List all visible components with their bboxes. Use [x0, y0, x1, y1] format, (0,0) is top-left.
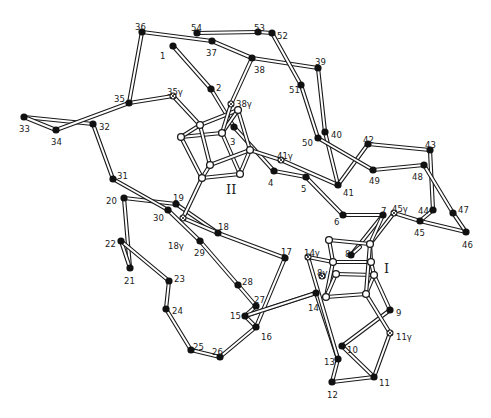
atom-label: 32 — [99, 122, 110, 132]
atom-label: 8γ — [317, 268, 327, 278]
atom-24-icon — [162, 305, 169, 312]
bond-9-10 — [342, 310, 390, 346]
atom-label: 7 — [381, 206, 386, 216]
atom-45-icon — [416, 217, 423, 224]
atom-label: 23 — [174, 274, 185, 284]
atom-34-icon — [52, 126, 59, 133]
atom-47-icon — [449, 209, 456, 216]
atom-label: 15 — [230, 311, 241, 321]
iron-sulfur-cluster-bonds — [129, 58, 420, 377]
bond-26-16 — [220, 327, 256, 357]
atom-label: 14γ — [304, 248, 320, 258]
atom-label: 17 — [281, 247, 292, 257]
atom-2-icon — [207, 85, 214, 92]
atom-50-icon — [314, 134, 321, 141]
atom-33-icon — [20, 113, 27, 120]
atom-1-icon — [169, 42, 176, 49]
cluster-i-atom-icon — [330, 259, 337, 266]
cluster-i-atom-icon — [326, 237, 333, 244]
atom-label: 53 — [254, 23, 265, 33]
cluster-ii-atom-icon — [178, 134, 185, 141]
atom-44-icon — [429, 206, 436, 213]
cluster-ii-atom-icon — [237, 171, 244, 178]
cluster-i-atom-icon — [323, 294, 330, 301]
atom-22-icon — [117, 237, 124, 244]
atom-label: 1 — [160, 51, 165, 61]
atom-label: 27 — [254, 295, 265, 305]
atom-label: 46 — [462, 240, 473, 250]
cluster-ii-atom-icon — [219, 130, 226, 137]
bond-37-38 — [212, 41, 252, 58]
atom-label: 14 — [308, 303, 319, 313]
atom-label: 12 — [327, 390, 338, 400]
atom-label: 29 — [194, 248, 205, 258]
atom-label: 4 — [268, 178, 273, 188]
atom-label: 18γ — [168, 241, 184, 251]
atom-label: 11γ — [396, 332, 412, 342]
atom-label: 38 — [254, 65, 265, 75]
cluster-i-atom-icon — [363, 291, 370, 298]
atom-37-icon — [208, 37, 215, 44]
atom-label: 39 — [315, 57, 326, 67]
atom-32-icon — [89, 120, 96, 127]
atom-label: 3 — [230, 137, 235, 147]
cluster-ii-atom-icon — [197, 122, 204, 129]
atom-label: 28 — [242, 277, 253, 287]
atom-label: 52 — [277, 31, 288, 41]
bond-3-4 — [234, 127, 274, 171]
atom-labels: 1234567891011121314151617181920212223242… — [19, 22, 473, 400]
bond-17-18 — [218, 233, 285, 258]
atom-label: 2 — [216, 83, 221, 93]
atom-28-icon — [234, 281, 241, 288]
protein-backbone-diagram: 1234567891011121314151617181920212223242… — [0, 0, 491, 418]
atom-label: 18 — [218, 222, 229, 232]
bond-16-17 — [256, 258, 285, 327]
atom-48-icon — [420, 161, 427, 168]
atom-10-icon — [338, 342, 345, 349]
atom-label: 11 — [379, 378, 390, 388]
cluster-i-atom-icon — [371, 272, 378, 279]
atom-label: 48 — [412, 172, 423, 182]
cluster-ii-atom-icon — [207, 162, 214, 169]
atom-label: 43 — [425, 140, 436, 150]
atom-12-icon — [328, 378, 335, 385]
atom-label: 31 — [117, 171, 128, 181]
atom-14-icon — [312, 289, 319, 296]
atom-38-icon — [248, 54, 255, 61]
atom-label: 44 — [418, 206, 429, 216]
atom-label: 49 — [369, 176, 380, 186]
atom-label: 16 — [261, 332, 272, 342]
bond-50-51 — [301, 85, 318, 138]
cluster-label-i: I — [384, 261, 389, 276]
cluster-ii-atom-icon — [247, 147, 254, 154]
atom-label: 26 — [212, 347, 223, 357]
atom-6-icon — [339, 211, 346, 218]
atom-label: 40 — [331, 130, 342, 140]
atom-label: 35γ — [167, 87, 183, 97]
atom-49-icon — [369, 166, 376, 173]
atom-4-icon — [270, 167, 277, 174]
atom-5-icon — [302, 173, 309, 180]
atom-21-icon — [126, 264, 133, 271]
atom-label: 24 — [172, 306, 183, 316]
atom-label: 35 — [114, 94, 125, 104]
atom-label: 5 — [301, 184, 306, 194]
bond-39-40 — [318, 68, 325, 132]
atom-label: 6 — [334, 217, 339, 227]
atom-label: 45 — [414, 228, 425, 238]
atom-label: 41γ — [277, 151, 293, 161]
atom-label: 30 — [153, 213, 164, 223]
atom-label: 36 — [135, 22, 146, 32]
bond-31-32 — [93, 124, 113, 179]
atom-35-icon — [125, 99, 132, 106]
atom-label: 50 — [302, 138, 313, 148]
atom-23-icon — [165, 277, 172, 284]
atom-46-icon — [462, 228, 469, 235]
bond-53-54 — [197, 32, 258, 33]
atom-30-icon — [164, 206, 171, 213]
atom-31-icon — [109, 175, 116, 182]
atom-11-icon — [370, 373, 377, 380]
atom-label: 34 — [51, 137, 62, 147]
atom-label: 21 — [124, 276, 135, 286]
atom-label: 37 — [206, 48, 217, 58]
